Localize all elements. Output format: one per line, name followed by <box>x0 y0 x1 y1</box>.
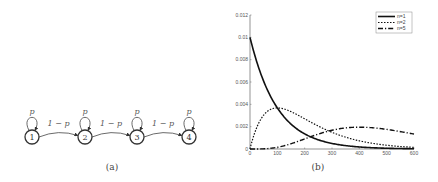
x-tick-label: 200 <box>300 150 309 156</box>
markov-chain-diagram: p11 − pp21 − pp31 − pp4 (a) <box>0 0 225 182</box>
chart-legend: n=1n=2n=5 <box>376 12 412 33</box>
y-tick-label: 0.012 <box>235 12 248 18</box>
chart-series <box>250 37 414 149</box>
markov-chain-svg: p11 − pp21 − pp31 − pp4 (a) <box>0 0 225 182</box>
state-node-label: 4 <box>186 133 191 142</box>
y-tick-label: 0.006 <box>235 79 248 85</box>
x-tick-label: 600 <box>410 150 419 156</box>
y-tick-label: 0 <box>245 146 248 152</box>
self-loop-label: p <box>134 107 139 116</box>
chart-axes: 010020030040050060000.0020.0040.0060.008… <box>235 12 418 156</box>
y-tick-label: 0.008 <box>235 56 248 62</box>
self-loop-label: p <box>186 107 191 116</box>
self-loop-arrow <box>132 117 142 130</box>
legend-label: n=5 <box>397 25 406 31</box>
state-node-label: 2 <box>82 133 87 142</box>
x-tick-label: 400 <box>355 150 364 156</box>
state-node-label: 1 <box>29 133 34 142</box>
x-tick-label: 100 <box>273 150 282 156</box>
x-tick-label: 300 <box>328 150 337 156</box>
transition-label: 1 − p <box>152 119 174 128</box>
transition-arrow <box>92 133 130 137</box>
series-line-n1 <box>250 37 414 148</box>
transition-label: 1 − p <box>100 119 122 128</box>
caption-a: (a) <box>106 162 118 172</box>
x-tick-label: 500 <box>382 150 391 156</box>
self-loop-label: p <box>29 107 34 116</box>
state-node-label: 3 <box>134 133 139 142</box>
caption-b: (b) <box>312 162 325 172</box>
y-tick-label: 0.004 <box>235 101 248 107</box>
y-tick-label: 0.01 <box>238 34 248 40</box>
transition-arrow <box>144 133 182 137</box>
transition-label: 1 − p <box>48 119 70 128</box>
self-loop-label: p <box>82 107 87 116</box>
transition-arrow <box>39 133 78 137</box>
x-tick-label: 0 <box>249 150 252 156</box>
self-loop-arrow <box>80 117 90 130</box>
state-nodes: p11 − pp21 − pp31 − pp4 <box>25 107 196 144</box>
density-chart-svg: 010020030040050060000.0020.0040.0060.008… <box>225 0 438 182</box>
self-loop-arrow <box>27 117 37 130</box>
y-tick-label: 0.002 <box>235 123 248 129</box>
density-chart: 010020030040050060000.0020.0040.0060.008… <box>225 0 438 182</box>
self-loop-arrow <box>184 117 194 130</box>
